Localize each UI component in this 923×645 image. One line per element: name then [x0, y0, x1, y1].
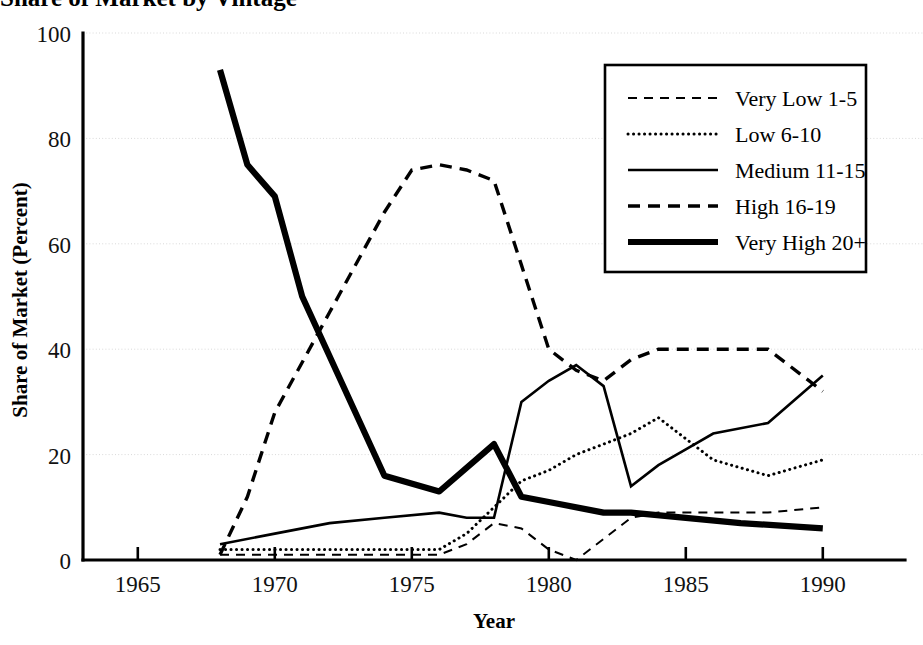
y-tick-label-0: 0 [60, 549, 72, 574]
x-tick-label-1990: 1990 [800, 572, 846, 597]
legend-label-very-low-1-5: Very Low 1-5 [735, 86, 857, 111]
legend-label-low-6-10: Low 6-10 [735, 122, 821, 147]
legend-label-medium-11-15: Medium 11-15 [735, 158, 866, 183]
y-tick-label-80: 80 [48, 127, 71, 152]
y-tick-label-60: 60 [48, 233, 71, 258]
x-tick-label-1965: 1965 [115, 572, 161, 597]
x-axis-title: Year [473, 609, 515, 633]
y-tick-label-20: 20 [48, 444, 71, 469]
x-tick-label-1975: 1975 [389, 572, 435, 597]
x-tick-label-1970: 1970 [252, 572, 298, 597]
series-very-low-1-5 [220, 507, 823, 560]
series-low-6-10 [220, 418, 823, 550]
legend-label-high-16-19: High 16-19 [735, 194, 836, 219]
y-tick-label-40: 40 [48, 338, 71, 363]
legend: Very Low 1-5Low 6-10Medium 11-15High 16-… [605, 65, 866, 272]
x-tick-label-1985: 1985 [663, 572, 709, 597]
chart-page: Share of Market by Vintage 1965197019751… [0, 0, 923, 645]
x-tick-label-1980: 1980 [526, 572, 572, 597]
legend-label-very-high-20: Very High 20+ [735, 230, 866, 255]
y-axis-title: Share of Market (Percent) [8, 182, 32, 417]
line-chart: 196519701975198019851990 020406080100 Ye… [0, 0, 923, 645]
y-axis-ticks: 020406080100 [37, 22, 72, 574]
y-tick-label-100: 100 [37, 22, 72, 47]
